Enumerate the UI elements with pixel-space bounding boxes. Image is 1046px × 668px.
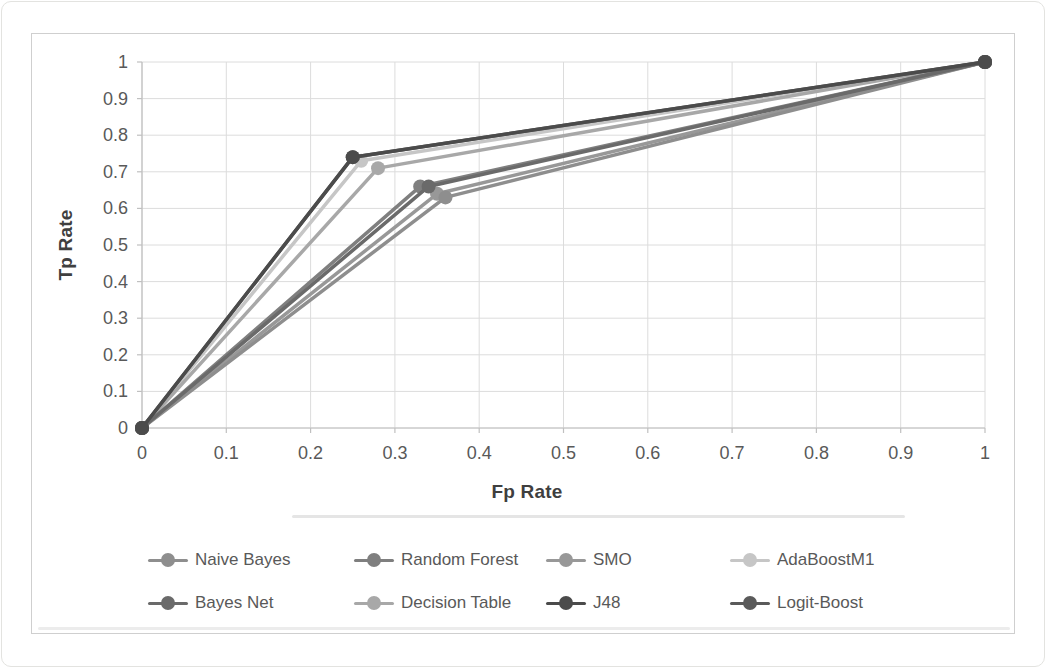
legend-label: AdaBoostM1	[777, 550, 874, 570]
legend-item-j48: J48	[546, 590, 730, 616]
y-tick-label: 0.5	[103, 235, 128, 255]
legend-label: Bayes Net	[195, 593, 273, 613]
x-tick-label: 0.2	[298, 443, 323, 463]
legend-item-naive-bayes: Naive Bayes	[148, 547, 354, 573]
legend-label: Decision Table	[401, 593, 511, 613]
legend-item-decision-table: Decision Table	[354, 590, 546, 616]
legend-label: Logit-Boost	[777, 593, 863, 613]
legend-item-logit-boost: Logit-Boost	[730, 590, 920, 616]
series-marker-j48	[978, 55, 992, 69]
legend-series-marker-icon	[546, 596, 586, 610]
x-tick-label: 0.4	[467, 443, 492, 463]
y-tick-label: 0	[118, 418, 128, 438]
y-tick-label: 0.4	[103, 272, 128, 292]
legend-series-marker-icon	[354, 596, 394, 610]
y-tick-label: 0.6	[103, 198, 128, 218]
legend-label: Random Forest	[401, 550, 518, 570]
legend-item-smo: SMO	[546, 547, 730, 573]
legend-dot-icon	[367, 553, 381, 567]
legend-label: J48	[593, 593, 620, 613]
y-tick-label: 0.3	[103, 308, 128, 328]
legend-label: SMO	[593, 550, 632, 570]
y-tick-label: 0.1	[103, 381, 128, 401]
x-tick-label: 1	[980, 443, 990, 463]
y-axis-title: Tp Rate	[55, 209, 77, 280]
y-tick-label: 0.2	[103, 345, 128, 365]
legend-item-random-forest: Random Forest	[354, 547, 546, 573]
x-tick-label: 0.1	[214, 443, 239, 463]
tick-labels-layer: 00.10.20.30.40.50.60.70.80.9100.10.20.30…	[103, 52, 990, 463]
y-tick-label: 0.7	[103, 162, 128, 182]
x-tick-label: 0.8	[804, 443, 829, 463]
x-tick-label: 0.5	[551, 443, 576, 463]
legend-series-marker-icon	[148, 596, 188, 610]
legend-series-marker-icon	[730, 553, 770, 567]
series-marker-j48	[135, 421, 149, 435]
y-tick-label: 0.8	[103, 125, 128, 145]
x-tick-label: 0	[137, 443, 147, 463]
legend-dot-icon	[743, 596, 757, 610]
legend-series-marker-icon	[546, 553, 586, 567]
legend-dot-icon	[161, 553, 175, 567]
legend-dot-icon	[559, 553, 573, 567]
legend-dot-icon	[559, 596, 573, 610]
x-tick-label: 0.9	[888, 443, 913, 463]
chart-legend: Naive BayesRandom ForestSMOAdaBoostM1Bay…	[148, 547, 928, 616]
series-marker-j48	[346, 150, 360, 164]
x-tick-label: 0.6	[635, 443, 660, 463]
legend-dot-icon	[367, 596, 381, 610]
legend-label: Naive Bayes	[195, 550, 290, 570]
y-tick-label: 0.9	[103, 89, 128, 109]
legend-dot-icon	[743, 553, 757, 567]
series-marker-decision-table	[371, 161, 385, 175]
series-marker-bayes-net	[422, 179, 436, 193]
x-tick-label: 0.3	[382, 443, 407, 463]
axes-layer	[137, 62, 985, 433]
legend-item-bayes-net: Bayes Net	[148, 590, 354, 616]
y-tick-label: 1	[118, 52, 128, 72]
series-marker-naive-bayes	[438, 190, 452, 204]
legend-series-marker-icon	[148, 553, 188, 567]
legend-series-marker-icon	[354, 553, 394, 567]
legend-series-marker-icon	[730, 596, 770, 610]
legend-item-adaboostm1: AdaBoostM1	[730, 547, 920, 573]
x-tick-label: 0.7	[720, 443, 745, 463]
gridlines-layer	[142, 62, 985, 428]
legend-dot-icon	[161, 596, 175, 610]
x-axis-title: Fp Rate	[491, 481, 562, 503]
